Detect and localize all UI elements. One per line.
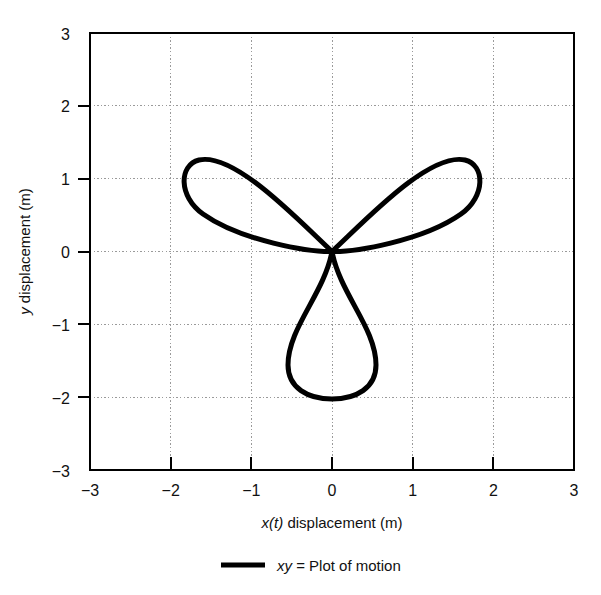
y-tick-label: 0: [61, 244, 70, 261]
x-tick-label: 1: [408, 482, 417, 499]
y-tick-label: −2: [52, 390, 70, 407]
x-tick-label: −3: [81, 482, 99, 499]
y-tick-label: −3: [52, 463, 70, 480]
x-tick-label: −1: [242, 482, 260, 499]
x-tick-label: 3: [570, 482, 579, 499]
legend-label-italic-xy: xy: [276, 557, 294, 574]
x-axis-label-paren-t: (t): [269, 514, 283, 531]
x-tick-label: 2: [489, 482, 498, 499]
legend-entry-label: xy = Plot of motion: [276, 557, 401, 574]
y-tick-label: 3: [61, 26, 70, 43]
y-axis-label-rest: displacement (m): [16, 188, 33, 307]
y-tick-label: 1: [61, 171, 70, 188]
xy-motion-plot-figure: −3 −2 −1 0 1 2 3 3 2 1 0 −1 −2 −3 x(t) d…: [0, 0, 601, 595]
legend-label-rest: = Plot of motion: [292, 557, 401, 574]
x-axis-label-rest: displacement (m): [283, 514, 402, 531]
x-axis-label: x(t) displacement (m): [261, 514, 403, 531]
x-tick-label: 0: [328, 482, 337, 499]
y-axis-label: y displacement (m): [16, 188, 33, 316]
y-tick-label: 2: [61, 98, 70, 115]
x-tick-label: −2: [162, 482, 180, 499]
y-tick-label: −1: [52, 317, 70, 334]
